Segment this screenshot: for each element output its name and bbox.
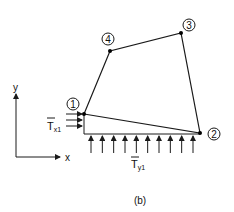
- node-4: [108, 49, 112, 53]
- figure-caption: (b): [134, 195, 146, 206]
- element-diagram: y x Tx1 Ty1 1 2 3 4 (b): [0, 0, 234, 212]
- quadrilateral-element: [84, 33, 200, 133]
- node-4-label: 4: [105, 34, 111, 45]
- coordinate-axes: y x: [13, 82, 70, 163]
- node-3-label: 3: [186, 20, 192, 31]
- x-axis-label: x: [65, 152, 70, 163]
- node-2: [198, 131, 202, 135]
- ty-label: Ty1: [131, 158, 145, 172]
- node-3: [179, 31, 183, 35]
- node-2-label: 2: [211, 129, 217, 140]
- tx-label: Tx1: [47, 120, 61, 133]
- node-1: [82, 112, 86, 116]
- y-axis-label: y: [13, 82, 18, 93]
- tx-traction: Tx1: [47, 114, 84, 134]
- ty-traction: Ty1: [84, 134, 200, 172]
- node-labels: 1 2 3 4: [67, 19, 220, 140]
- node-1-label: 1: [70, 99, 76, 110]
